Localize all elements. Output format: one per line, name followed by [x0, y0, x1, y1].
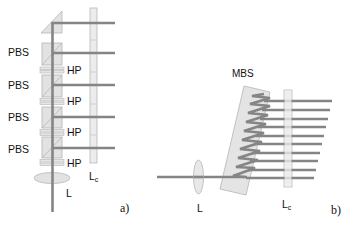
caption-a: a) — [120, 201, 129, 215]
panel-a: PBS PBS PBS PBS HP HP HP HP L Lc a) — [8, 8, 129, 215]
hp-label-2: HP — [67, 95, 82, 107]
lc-label-a: Lc — [89, 170, 99, 183]
panel-b: MBS L Lc b) — [157, 68, 341, 217]
lens-label-b: L — [197, 202, 203, 214]
lc-label-b: Lc — [282, 198, 292, 211]
hp-label-1: HP — [67, 64, 82, 76]
optical-diagram: PBS PBS PBS PBS HP HP HP HP L Lc a) — [0, 0, 352, 227]
caption-b: b) — [331, 203, 341, 217]
hp-label-3: HP — [67, 126, 82, 138]
lens-label-a: L — [66, 187, 72, 199]
pbs-label-1: PBS — [8, 46, 29, 58]
pbs-label-2: PBS — [8, 79, 29, 91]
pbs-label-3: PBS — [8, 111, 29, 123]
hp-label-4: HP — [67, 157, 82, 169]
pbs-label-4: PBS — [8, 143, 29, 155]
mbs-label: MBS — [232, 68, 254, 79]
